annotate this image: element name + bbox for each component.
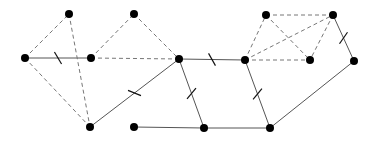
tick-mark-J-L	[339, 32, 347, 43]
node-H	[241, 56, 249, 64]
edge-I-K	[266, 15, 310, 60]
edges-layer	[25, 14, 354, 128]
edge-L-N	[270, 61, 354, 128]
node-D	[130, 10, 138, 18]
node-I	[262, 11, 270, 19]
node-K	[306, 56, 314, 64]
node-C	[87, 54, 95, 62]
node-B	[65, 10, 73, 18]
node-A	[21, 54, 29, 62]
edge-H-J	[245, 15, 333, 60]
edge-C-D	[91, 14, 134, 58]
node-L	[350, 57, 358, 65]
node-N	[266, 124, 274, 132]
edge-A-F	[25, 58, 90, 127]
tick-mark-E-M	[187, 88, 196, 99]
node-F	[86, 123, 94, 131]
node-E	[175, 55, 183, 63]
node-M	[200, 124, 208, 132]
edge-A-B	[25, 14, 69, 58]
edge-B-F	[69, 14, 90, 127]
ticks-layer	[54, 32, 347, 99]
edge-D-E	[134, 14, 179, 59]
tick-mark-H-N	[253, 89, 262, 100]
graph-diagram	[0, 0, 373, 143]
node-G	[130, 123, 138, 131]
edge-C-E	[91, 58, 179, 59]
edge-H-I	[245, 15, 266, 60]
node-J	[329, 11, 337, 19]
edge-G-M	[134, 127, 204, 128]
tick-mark-E-F	[128, 90, 141, 95]
edge-J-K	[310, 15, 333, 60]
